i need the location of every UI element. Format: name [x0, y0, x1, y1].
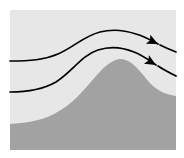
diagram-figure — [0, 0, 184, 158]
airflow-terrain-diagram — [0, 0, 184, 158]
